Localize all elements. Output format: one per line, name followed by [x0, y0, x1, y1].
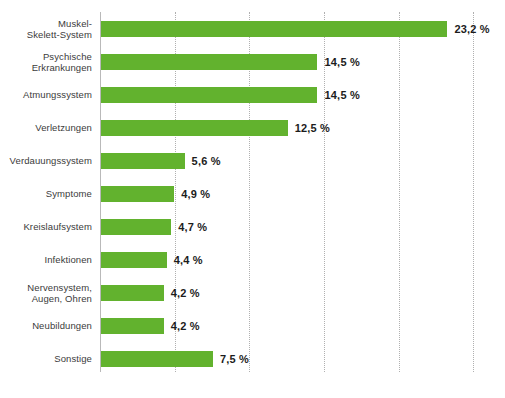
value-label: 12,5 %	[295, 122, 330, 134]
chart-footnote	[100, 380, 495, 396]
category-label: Verletzungen	[0, 122, 92, 134]
bar	[101, 54, 317, 70]
bar-row: Sonstige7,5 %	[0, 342, 505, 375]
value-label: 23,2 %	[454, 23, 489, 35]
value-label: 4,9 %	[181, 188, 210, 200]
bar-rows: Muskel- Skelett-System23,2 %Psychische E…	[0, 0, 505, 372]
value-label: 14,5 %	[324, 89, 359, 101]
bar-row: Kreislaufsystem4,7 %	[0, 210, 505, 243]
bar	[101, 252, 167, 268]
category-label: Neubildungen	[0, 320, 92, 332]
bar-row: Atmungssystem14,5 %	[0, 78, 505, 111]
category-label: Psychische Erkrankungen	[0, 50, 92, 73]
value-label: 5,6 %	[192, 155, 221, 167]
bar	[101, 120, 288, 136]
value-label: 4,4 %	[174, 254, 203, 266]
category-label: Kreislaufsystem	[0, 221, 92, 233]
bar	[101, 87, 317, 103]
category-label: Muskel- Skelett-System	[0, 17, 92, 40]
bar-row: Neubildungen4,2 %	[0, 309, 505, 342]
category-label: Atmungssystem	[0, 89, 92, 101]
value-label: 4,2 %	[171, 287, 200, 299]
bar	[101, 186, 174, 202]
bar	[101, 351, 213, 367]
bar-row: Verdauungssystem5,6 %	[0, 144, 505, 177]
bar-row: Nervensystem, Augen, Ohren4,2 %	[0, 276, 505, 309]
value-label: 14,5 %	[324, 56, 359, 68]
bar-row: Verletzungen12,5 %	[0, 111, 505, 144]
bar-row: Infektionen4,4 %	[0, 243, 505, 276]
value-label: 4,2 %	[171, 320, 200, 332]
bar-row: Symptome4,9 %	[0, 177, 505, 210]
bar-row: Muskel- Skelett-System23,2 %	[0, 12, 505, 45]
bar	[101, 285, 164, 301]
bar	[101, 219, 171, 235]
bar-chart: Muskel- Skelett-System23,2 %Psychische E…	[0, 0, 505, 398]
value-label: 4,7 %	[178, 221, 207, 233]
bar	[101, 318, 164, 334]
value-label: 7,5 %	[220, 353, 249, 365]
category-label: Verdauungssystem	[0, 155, 92, 167]
category-label: Nervensystem, Augen, Ohren	[0, 281, 92, 304]
bar-row: Psychische Erkrankungen14,5 %	[0, 45, 505, 78]
bar	[101, 153, 185, 169]
bar	[101, 21, 447, 37]
category-label: Sonstige	[0, 353, 92, 365]
category-label: Symptome	[0, 188, 92, 200]
category-label: Infektionen	[0, 254, 92, 266]
